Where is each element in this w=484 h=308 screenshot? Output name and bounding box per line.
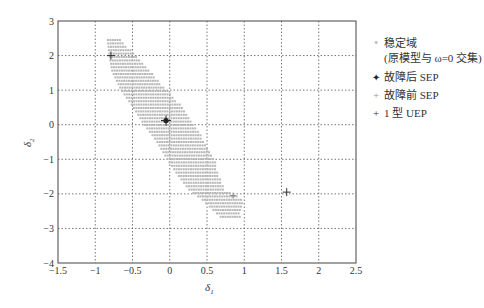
legend-item-post-fault-sep: ✦ 故障后 SEP bbox=[368, 70, 482, 85]
x-axis-ticks: −1.5−1−0.500.511.522.5 bbox=[49, 265, 362, 276]
legend-label: 故障后 SEP bbox=[384, 70, 439, 85]
svg-text:−1: −1 bbox=[90, 265, 101, 276]
star-icon: ✦ bbox=[368, 70, 384, 85]
dot-icon: • bbox=[368, 36, 384, 51]
svg-text:1: 1 bbox=[49, 85, 54, 96]
y-axis-ticks: 3210−1−2−3−4 bbox=[43, 16, 54, 269]
legend-item-stability-region: • 稳定域 (原模型与 ω=0 交集) bbox=[368, 36, 482, 66]
svg-text:0.5: 0.5 bbox=[201, 265, 214, 276]
legend-label-line2: (原模型与 ω=0 交集) bbox=[384, 51, 482, 66]
svg-text:1.5: 1.5 bbox=[275, 265, 288, 276]
svg-text:2: 2 bbox=[49, 50, 54, 61]
legend-label: 稳定域 bbox=[384, 36, 482, 51]
svg-text:2.5: 2.5 bbox=[350, 265, 363, 276]
stability-region bbox=[107, 39, 243, 218]
svg-text:−1: −1 bbox=[43, 154, 54, 165]
grid-lines bbox=[58, 21, 356, 263]
svg-text:−3: −3 bbox=[43, 223, 54, 234]
svg-text:−4: −4 bbox=[43, 258, 54, 269]
legend-item-pre-fault-sep: + 故障前 SEP bbox=[368, 88, 482, 103]
svg-text:−0.5: −0.5 bbox=[123, 265, 141, 276]
svg-text:3: 3 bbox=[49, 16, 54, 27]
svg-text:2: 2 bbox=[316, 265, 321, 276]
x-axis-label: δ1 bbox=[205, 281, 214, 296]
plus-icon: + bbox=[368, 106, 384, 121]
svg-text:0: 0 bbox=[167, 265, 172, 276]
svg-text:−2: −2 bbox=[43, 188, 54, 199]
legend-item-type1-uep: + 1 型 UEP bbox=[368, 106, 482, 121]
plus-icon: + bbox=[368, 88, 384, 103]
svg-text:0: 0 bbox=[49, 119, 54, 130]
legend-label: 故障前 SEP bbox=[384, 88, 439, 103]
legend-label: 1 型 UEP bbox=[384, 106, 427, 121]
svg-text:1: 1 bbox=[242, 265, 247, 276]
legend: • 稳定域 (原模型与 ω=0 交集) ✦ 故障后 SEP + 故障前 SEP … bbox=[368, 36, 482, 121]
y-axis-label: δ2 bbox=[21, 138, 36, 147]
